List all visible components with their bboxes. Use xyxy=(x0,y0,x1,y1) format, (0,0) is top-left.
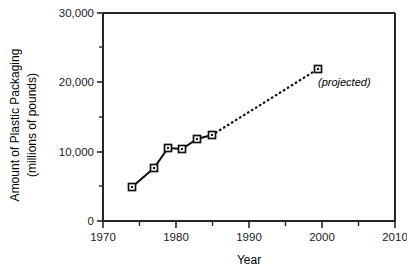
series-projected xyxy=(212,69,318,135)
data-point-1983 xyxy=(194,136,201,143)
axes-group xyxy=(103,13,395,221)
data-point-1985 xyxy=(209,132,216,139)
data-point-1974 xyxy=(129,184,136,191)
y-tick-label-30000: 30,000 xyxy=(59,7,94,19)
projected-annotation: (projected) xyxy=(318,76,371,88)
x-tick-labels: 1970 1980 1990 2000 2010 xyxy=(90,231,407,243)
x-tick-label-1970: 1970 xyxy=(90,231,116,243)
y-axis-title-line2: (millions of pounds) xyxy=(25,73,39,177)
data-point-1977 xyxy=(151,165,158,172)
x-tick-label-1980: 1980 xyxy=(163,231,189,243)
y-axis-title-line1: Amount of Plastic Packaging xyxy=(8,49,22,202)
y-tick-label-0: 0 xyxy=(88,215,94,227)
chart-canvas: 30,000 20,000 10,000 0 1970 1980 1990 20… xyxy=(0,0,407,271)
x-tick-label-2000: 2000 xyxy=(309,231,335,243)
x-axis-title: Year xyxy=(237,253,261,267)
axis-lines xyxy=(103,13,395,221)
series-projected-line xyxy=(212,69,318,135)
y-tick-label-20000: 20,000 xyxy=(59,76,94,88)
y-tick-label-10000: 10,000 xyxy=(59,146,94,158)
x-tick-label-1990: 1990 xyxy=(236,231,262,243)
x-major-ticks xyxy=(103,221,395,228)
chart-figure: 30,000 20,000 10,000 0 1970 1980 1990 20… xyxy=(0,0,407,271)
x-tick-label-2010: 2010 xyxy=(382,231,407,243)
data-point-1979 xyxy=(165,145,172,152)
data-point-1981 xyxy=(179,146,186,153)
data-point-2000-projected xyxy=(315,66,322,73)
y-tick-labels: 30,000 20,000 10,000 0 xyxy=(59,7,94,227)
